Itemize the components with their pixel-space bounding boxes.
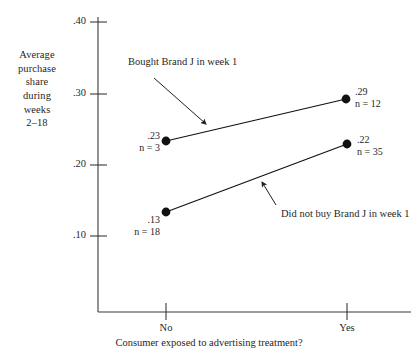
y-axis-title-line-6: 2–18 <box>26 117 47 128</box>
point-n-not-bought-yes: n = 35 <box>357 146 383 158</box>
y-axis-title-line-3: share <box>26 76 49 87</box>
point-value-bought-no: .23 <box>116 130 160 142</box>
y-axis-title-line-5: weeks <box>24 104 51 115</box>
annotation-arrow-bought <box>154 78 206 124</box>
series-line-bought <box>166 99 346 141</box>
point-label-not-bought-no: .13 n = 18 <box>116 214 160 238</box>
y-axis-title-line-4: during <box>23 90 51 101</box>
y-tick-label-20: .20 <box>52 158 86 170</box>
point-value-not-bought-no: .13 <box>116 214 160 226</box>
point-label-bought-yes: .29 n = 12 <box>355 86 381 110</box>
data-point-bought-no <box>162 137 171 146</box>
y-axis-title-line-2: purchase <box>18 63 56 74</box>
x-tick-label-no: No <box>146 322 186 334</box>
y-tick-label-40: .40 <box>52 15 86 27</box>
y-tick-label-10: .10 <box>52 229 86 241</box>
y-axis-title-line-1: Average <box>19 49 54 60</box>
data-point-not-bought-no <box>162 208 171 217</box>
annotation-not-bought: Did not buy Brand J in week 1 <box>281 208 410 220</box>
point-value-bought-yes: .29 <box>355 86 381 98</box>
point-n-bought-no: n = 3 <box>116 142 160 154</box>
point-label-bought-no: .23 n = 3 <box>116 130 160 154</box>
series-line-not-bought <box>166 144 347 212</box>
data-point-not-bought-yes <box>343 140 352 149</box>
x-tick-label-yes: Yes <box>327 322 367 334</box>
x-axis-caption: Consumer exposed to advertising treatmen… <box>0 337 418 349</box>
annotation-arrow-not-bought <box>262 182 276 205</box>
annotation-bought: Bought Brand J in week 1 <box>128 56 237 68</box>
data-point-bought-yes <box>342 95 351 104</box>
point-label-not-bought-yes: .22 n = 35 <box>357 134 383 158</box>
chart-figure: Average purchase share during weeks 2–18… <box>0 0 418 351</box>
y-tick-label-30: .30 <box>52 87 86 99</box>
point-n-not-bought-no: n = 18 <box>116 226 160 238</box>
point-value-not-bought-yes: .22 <box>357 134 383 146</box>
point-n-bought-yes: n = 12 <box>355 98 381 110</box>
